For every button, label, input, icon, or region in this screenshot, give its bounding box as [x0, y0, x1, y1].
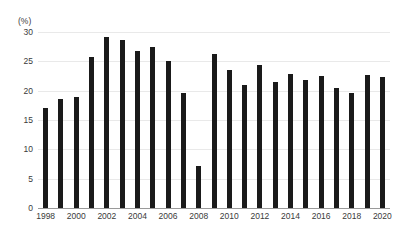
x-axis-tick-label: 2006 — [153, 211, 183, 221]
y-axis-tick-label: 30 — [24, 28, 33, 37]
y-axis-tick-label: 10 — [24, 145, 33, 154]
bar-chart: (%) 051015202530 19982000200220042006200… — [0, 0, 402, 242]
bar — [319, 76, 324, 208]
bar — [242, 85, 247, 208]
x-axis-line — [38, 208, 390, 209]
x-axis-tick-label: 2004 — [122, 211, 152, 221]
bar — [227, 70, 232, 208]
x-axis-tick-label: 2014 — [276, 211, 306, 221]
x-axis-tick-label: 1998 — [31, 211, 61, 221]
bar — [181, 93, 186, 208]
x-axis-tick-label: 2002 — [92, 211, 122, 221]
y-axis-tick-label: 15 — [24, 116, 33, 125]
bar — [135, 51, 140, 208]
bar — [89, 57, 94, 208]
bar — [166, 61, 171, 208]
y-axis-tick-label: 20 — [24, 87, 33, 96]
x-axis-tick-labels: 1998200020022004200620082010201220142016… — [38, 211, 390, 233]
bar — [288, 74, 293, 208]
bar — [303, 80, 308, 208]
x-axis-tick-label: 2018 — [337, 211, 367, 221]
bar — [365, 75, 370, 208]
y-axis-tick-label: 25 — [24, 57, 33, 66]
x-axis-tick-label: 2020 — [367, 211, 397, 221]
bar — [257, 65, 262, 208]
x-axis-tick-label: 2000 — [61, 211, 91, 221]
x-axis-tick-label: 2010 — [214, 211, 244, 221]
bar — [334, 88, 339, 208]
y-axis-tick-label: 5 — [28, 175, 33, 184]
bar — [349, 93, 354, 208]
bar — [104, 37, 109, 208]
bar — [150, 47, 155, 208]
bar — [380, 77, 385, 208]
bar — [212, 54, 217, 208]
x-axis-tick-label: 2016 — [306, 211, 336, 221]
gridline — [38, 32, 390, 33]
bar — [120, 40, 125, 208]
y-axis-tick-labels: 051015202530 — [0, 0, 33, 242]
bar — [273, 82, 278, 208]
bar — [58, 99, 63, 208]
plot-area — [38, 32, 390, 208]
x-axis-tick-label: 2008 — [184, 211, 214, 221]
bar — [43, 108, 48, 208]
x-axis-tick-label: 2012 — [245, 211, 275, 221]
bar — [74, 97, 79, 208]
bar — [196, 166, 201, 208]
